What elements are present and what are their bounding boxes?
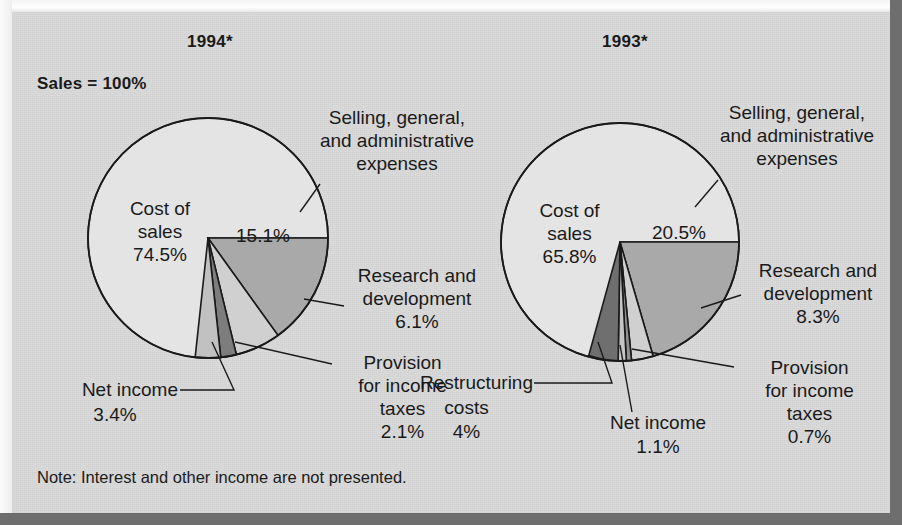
label-research-line2-1994: development	[332, 288, 502, 310]
value-sga-1993: 20.5%	[652, 222, 706, 244]
scanned-page: 1994* Sales = 100% Cost of sales 74.5% S…	[12, 12, 890, 513]
label-sga-line2-1994: and administrative	[302, 130, 492, 152]
label-research-line2-1993: development	[743, 283, 893, 305]
scan-edge-bottom	[0, 513, 902, 525]
label-cost-of-sales-value-1993: 65.8%	[512, 246, 627, 268]
value-restructuring-1993: 4%	[400, 421, 533, 443]
label-restructuring-line2-1993: costs	[400, 397, 533, 419]
label-sga-line3-1993: expenses	[702, 148, 892, 170]
sales-legend: Sales = 100%	[37, 74, 147, 94]
label-cost-of-sales-line2-1994: sales	[100, 221, 220, 243]
value-taxes-1993: 0.7%	[742, 426, 877, 448]
label-taxes-line3-1993: taxes	[742, 403, 877, 425]
label-sga-line2-1993: and administrative	[702, 125, 892, 147]
label-cost-of-sales-line2-1993: sales	[512, 223, 627, 245]
label-taxes-line2-1993: for income	[742, 380, 877, 402]
label-sga-line3-1994: expenses	[302, 153, 492, 175]
chart-note: Note: Interest and other income are not …	[37, 468, 407, 487]
chart-title-1994: 1994*	[187, 32, 233, 52]
chart-title-1993: 1993*	[602, 32, 648, 52]
screenshot-root: 1994* Sales = 100% Cost of sales 74.5% S…	[0, 0, 902, 525]
label-cost-of-sales-line1-1993: Cost of	[512, 200, 627, 222]
label-net-income-1994: Net income	[52, 379, 178, 401]
label-cost-of-sales-line1-1994: Cost of	[100, 198, 220, 220]
label-research-line1-1993: Research and	[743, 260, 893, 282]
value-research-1993: 8.3%	[743, 306, 893, 328]
label-cost-of-sales-value-1994: 74.5%	[100, 244, 220, 266]
label-research-line1-1994: Research and	[332, 265, 502, 287]
value-net-income-1994: 3.4%	[52, 404, 178, 426]
label-net-income-1993: Net income	[588, 412, 728, 434]
label-restructuring-line1-1993: Restructuring	[400, 372, 533, 394]
value-research-1994: 6.1%	[332, 311, 502, 333]
scan-edge-top	[0, 0, 890, 12]
leader-taxes-1994	[235, 342, 332, 364]
label-taxes-line1-1993: Provision	[742, 357, 877, 379]
scan-edge-left	[0, 0, 12, 513]
value-net-income-1993: 1.1%	[588, 436, 728, 458]
label-sga-line1-1993: Selling, general,	[702, 102, 892, 124]
value-sga-1994: 15.1%	[236, 225, 290, 247]
label-sga-line1-1994: Selling, general,	[302, 107, 492, 129]
scan-edge-right	[890, 0, 902, 525]
